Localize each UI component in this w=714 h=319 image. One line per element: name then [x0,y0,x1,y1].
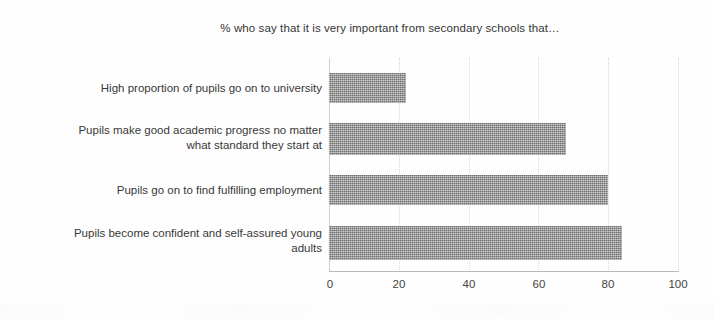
category-axis-labels: High proportion of pupils go on to unive… [0,0,322,319]
category-label-line: adults [22,241,322,256]
x-tick-label-20: 20 [379,278,419,290]
x-tick-label-100: 100 [658,278,698,290]
category-label-line: Pupils go on to find fulfilling employme… [22,183,322,198]
bar-fulfilling-employment[interactable] [329,175,608,205]
category-label-line: Pupils become confident and self-assured… [22,226,322,241]
category-label-line: High proportion of pupils go on to unive… [22,81,322,96]
category-label-university: High proportion of pupils go on to unive… [22,81,322,96]
category-label-confident-young-adults: Pupils become confident and self-assured… [22,226,322,256]
category-label-line: what standard they start at [22,138,322,153]
bar-row [329,226,678,260]
bar-row [329,73,678,103]
bar-chart-figure: % who say that it is very important from… [0,0,714,319]
category-label-academic-progress: Pupils make good academic progress no ma… [22,123,322,153]
bar-academic-progress[interactable] [329,123,566,155]
bar-confident-young-adults[interactable] [329,226,622,260]
category-label-line: Pupils make good academic progress no ma… [22,123,322,138]
category-label-fulfilling-employment: Pupils go on to find fulfilling employme… [22,183,322,198]
bar-row [329,175,678,205]
plot-area [329,58,678,272]
bar-university[interactable] [329,73,406,103]
x-axis-line [329,271,679,272]
bar-row [329,123,678,155]
x-tick-label-60: 60 [519,278,559,290]
x-tick-label-80: 80 [588,278,628,290]
x-tick-label-40: 40 [449,278,489,290]
gridline-100 [678,58,680,272]
